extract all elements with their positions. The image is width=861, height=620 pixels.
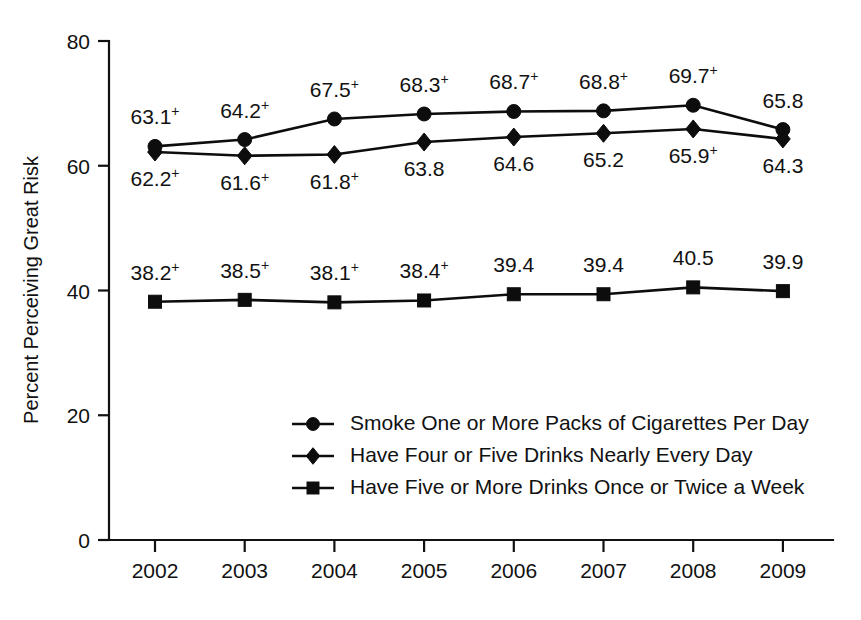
data-point-labels-group: 63.1+64.2+67.5+68.3+68.7+68.8+69.7+65.86… [130,62,803,284]
y-tick-label: 80 [67,30,90,53]
x-axis-ticks: 20022003200420052006200720082009 [132,540,807,582]
x-tick-label: 2004 [311,559,358,582]
significance-marker: + [530,68,538,84]
data-point-label: 39.4 [583,253,624,276]
data-point-label: 68.7+ [489,68,538,93]
square-marker-icon [307,482,319,494]
data-point-label: 63.1+ [130,103,179,128]
square-marker-icon [238,293,251,306]
x-tick-label: 2005 [401,559,448,582]
circle-marker-icon [307,418,320,431]
square-marker-icon [149,295,162,308]
data-point-label: 65.2 [583,148,624,171]
legend-item-label: Have Five or More Drinks Once or Twice a… [350,475,805,498]
data-point-label: 68.8+ [579,68,628,93]
data-point-label: 39.9 [762,250,803,273]
data-point-label: 38.2+ [130,259,179,284]
y-axis-ticks: 020406080 [67,30,109,552]
square-marker-icon [328,296,341,309]
significance-marker: + [710,142,718,158]
significance-marker: + [351,259,359,275]
significance-marker: + [261,97,269,113]
x-tick-label: 2008 [670,559,717,582]
y-tick-label: 60 [67,155,90,178]
chart-figure: Percent Perceiving Great Risk 020406080 … [0,0,861,620]
significance-marker: + [620,68,628,84]
diamond-marker-icon [327,146,342,164]
line-chart-canvas: Percent Perceiving Great Risk 020406080 … [0,0,861,620]
significance-marker: + [440,71,448,87]
square-marker-icon [597,288,610,301]
data-point-label: 39.4 [493,253,534,276]
data-point-label: 64.6 [493,152,534,175]
data-point-label: 62.2+ [130,165,179,190]
significance-marker: + [261,169,269,185]
significance-marker: + [171,259,179,275]
legend-item-label: Smoke One or More Packs of Cigarettes Pe… [350,411,809,434]
y-tick-label: 20 [67,404,90,427]
circle-marker-icon [238,133,252,147]
significance-marker: + [351,76,359,92]
data-point-label: 63.8 [404,157,445,180]
x-tick-label: 2006 [490,559,537,582]
circle-marker-icon [686,98,700,112]
square-marker-icon [776,285,789,298]
legend-item: Have Four or Five Drinks Nearly Every Da… [292,443,753,466]
x-tick-label: 2007 [580,559,627,582]
legend-item: Smoke One or More Packs of Cigarettes Pe… [292,411,809,434]
data-point-label: 69.7+ [669,62,718,87]
circle-marker-icon [597,104,611,118]
square-marker-icon [687,281,700,294]
significance-marker: + [440,257,448,273]
chart-legend: Smoke One or More Packs of Cigarettes Pe… [292,411,809,498]
significance-marker: + [171,165,179,181]
square-marker-icon [418,294,431,307]
diamond-marker-icon [506,128,521,146]
data-point-label: 61.6+ [220,169,269,194]
data-point-label: 68.3+ [400,71,449,96]
diamond-marker-icon [686,120,701,138]
data-point-label: 64.2+ [220,97,269,122]
x-tick-label: 2002 [132,559,179,582]
diamond-marker-icon [306,448,320,465]
x-tick-label: 2003 [221,559,268,582]
square-marker-icon [507,288,520,301]
y-axis-title: Percent Perceiving Great Risk [20,155,42,424]
diamond-marker-icon [417,133,432,151]
legend-item: Have Five or More Drinks Once or Twice a… [292,475,805,498]
data-point-label: 38.4+ [400,257,449,282]
significance-marker: + [710,62,718,78]
data-point-label: 65.8 [762,89,803,112]
data-point-label: 65.9+ [669,142,718,167]
data-point-label: 61.8+ [310,168,359,193]
data-point-label: 40.5 [673,246,714,269]
data-point-label: 38.1+ [310,259,359,284]
data-point-label: 67.5+ [310,76,359,101]
x-tick-label: 2009 [760,559,807,582]
y-tick-label: 40 [67,280,90,303]
circle-marker-icon [327,112,341,126]
data-point-label: 38.5+ [220,257,269,282]
significance-marker: + [261,257,269,273]
circle-marker-icon [417,107,431,121]
legend-item-label: Have Four or Five Drinks Nearly Every Da… [350,443,753,466]
diamond-marker-icon [237,147,252,165]
data-point-label: 64.3 [762,154,803,177]
significance-marker: + [351,168,359,184]
y-tick-label: 0 [78,529,90,552]
circle-marker-icon [507,104,521,118]
diamond-marker-icon [596,124,611,142]
significance-marker: + [171,103,179,119]
